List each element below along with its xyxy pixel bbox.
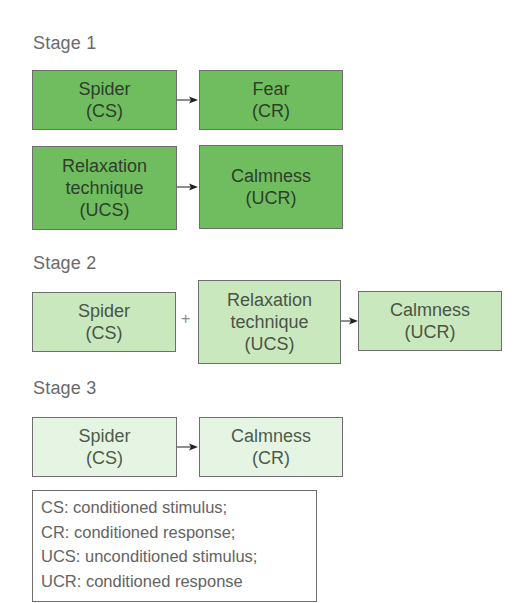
arrow-right-icon	[177, 94, 199, 106]
box-line: (CR)	[252, 100, 290, 122]
legend-item-cs: CS: conditioned stimulus;	[41, 495, 316, 520]
box-line: (UCR)	[246, 187, 297, 209]
stage-2-label: Stage 2	[33, 253, 96, 274]
box-line: (UCR)	[405, 321, 456, 343]
box-line: Relaxation	[227, 289, 312, 311]
plus-operator: +	[181, 310, 190, 328]
box-line: Relaxation	[62, 155, 147, 177]
box-line: Calmness	[390, 299, 470, 321]
stage1-spider-cs-box: Spider (CS)	[32, 70, 177, 130]
stage3-spider-cs-box: Spider (CS)	[32, 417, 177, 477]
legend-item-ucr: UCR: conditioned response	[41, 569, 316, 594]
legend-box: CS: conditioned stimulus; CR: conditione…	[32, 490, 317, 602]
stage2-spider-cs-box: Spider (CS)	[32, 292, 176, 352]
stage2-relaxation-ucs-box: Relaxation technique (UCS)	[198, 280, 341, 364]
legend-item-cr: CR: conditioned response;	[41, 520, 316, 545]
box-line: Spider	[78, 300, 130, 322]
box-line: technique	[65, 177, 143, 199]
box-line: (CS)	[86, 322, 123, 344]
box-line: Spider	[78, 425, 130, 447]
arrow-right-icon	[341, 315, 359, 327]
stage2-calmness-ucr-box: Calmness (UCR)	[358, 291, 502, 351]
box-line: (CR)	[252, 447, 290, 469]
legend-item-ucs: UCS: unconditioned stimulus;	[41, 544, 316, 569]
box-line: Spider	[78, 78, 130, 100]
stage1-fear-cr-box: Fear (CR)	[199, 70, 343, 130]
box-line: (UCS)	[80, 199, 130, 221]
stage-3-label: Stage 3	[33, 378, 96, 399]
box-line: (CS)	[86, 100, 123, 122]
stage1-relaxation-ucs-box: Relaxation technique (UCS)	[32, 146, 177, 230]
box-line: Calmness	[231, 165, 311, 187]
stage1-calmness-ucr-box: Calmness (UCR)	[199, 145, 343, 229]
box-line: technique	[230, 311, 308, 333]
box-line: Fear	[252, 78, 289, 100]
box-line: Calmness	[231, 425, 311, 447]
stage-1-label: Stage 1	[33, 33, 96, 54]
arrow-right-icon	[177, 441, 199, 453]
stage3-calmness-cr-box: Calmness (CR)	[199, 417, 343, 477]
box-line: (UCS)	[245, 333, 295, 355]
box-line: (CS)	[86, 447, 123, 469]
arrow-right-icon	[177, 181, 199, 193]
